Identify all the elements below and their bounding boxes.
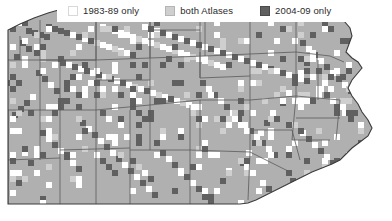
legend-label-second-atlas-only: 2004-09 only	[275, 6, 331, 16]
legend-entry-both-atlases: both Atlases	[165, 0, 233, 22]
legend-label-both-atlases: both Atlases	[180, 6, 233, 16]
legend-swatch-first-atlas-only	[68, 6, 78, 16]
legend-label-first-atlas-only: 1983-89 only	[83, 6, 139, 16]
legend-entry-second-atlas-only: 2004-09 only	[260, 0, 331, 22]
pennsylvania-map	[0, 0, 392, 221]
legend: 1983-89 only both Atlases 2004-09 only	[57, 0, 357, 22]
legend-swatch-second-atlas-only	[260, 6, 270, 16]
figure-root: 1983-89 only both Atlases 2004-09 only	[0, 0, 392, 221]
legend-swatch-both-atlases	[165, 6, 175, 16]
legend-entry-first-atlas-only: 1983-89 only	[68, 0, 139, 22]
